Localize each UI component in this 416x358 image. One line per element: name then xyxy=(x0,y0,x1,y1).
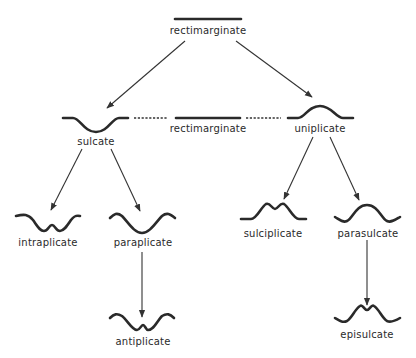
arrow-sulcate-to-intraplicate xyxy=(51,149,82,210)
uniplicate-shape xyxy=(288,106,353,118)
arrow-rectimarginate-to-sulcate xyxy=(107,41,185,108)
arrow-uniplicate-to-sulciplicate xyxy=(284,137,313,199)
label-parasulcate: parasulcate xyxy=(338,228,399,240)
label-paraplicate: paraplicate xyxy=(114,237,173,249)
fold-types-diagram xyxy=(0,0,416,358)
label-rectimarginate-mid: rectimarginate xyxy=(170,123,247,135)
parasulcate-shape xyxy=(335,205,400,222)
sulcate-shape xyxy=(63,118,128,132)
arrow-uniplicate-to-parasulcate xyxy=(330,137,359,200)
label-sulciplicate: sulciplicate xyxy=(244,228,303,240)
arrow-rectimarginate-to-uniplicate xyxy=(236,41,312,97)
label-sulcate: sulcate xyxy=(77,136,114,148)
label-antiplicate: antiplicate xyxy=(116,336,171,348)
paraplicate-shape xyxy=(110,214,175,233)
episulcate-shape xyxy=(335,306,400,322)
label-intraplicate: intraplicate xyxy=(18,237,77,249)
label-rectimarginate-top: rectimarginate xyxy=(170,25,247,37)
label-uniplicate: uniplicate xyxy=(294,123,345,135)
label-episulcate: episulcate xyxy=(340,329,393,341)
sulciplicate-shape xyxy=(241,204,306,219)
arrow-sulcate-to-paraplicate xyxy=(111,149,140,211)
intraplicate-shape xyxy=(16,215,80,231)
